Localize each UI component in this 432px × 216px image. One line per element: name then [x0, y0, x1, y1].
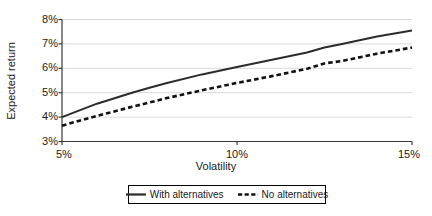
- legend-swatch-solid-line-icon: [126, 190, 146, 199]
- chart-legend: With alternatives No alternatives: [128, 185, 326, 204]
- x-tick-label-5: 5%: [56, 149, 96, 160]
- legend-label-with-alternatives: With alternatives: [150, 189, 224, 200]
- legend-item-no-alternatives: No alternatives: [238, 189, 329, 200]
- x-axis-title: Volatility: [0, 160, 432, 172]
- x-tick-label-10: 10%: [217, 149, 257, 160]
- x-axis-tick-labels: 5%10%15%: [0, 0, 432, 216]
- legend-item-with-alternatives: With alternatives: [126, 189, 224, 200]
- x-axis-title-label: Volatility: [196, 160, 236, 172]
- x-tick-label-15: 15%: [380, 149, 420, 160]
- legend-label-no-alternatives: No alternatives: [262, 189, 329, 200]
- legend-swatch-dashed-line-icon: [238, 190, 258, 199]
- expected-return-vs-volatility-chart: Expected return 3%4%5%6%7%8% 5%10%15% Vo…: [0, 0, 432, 216]
